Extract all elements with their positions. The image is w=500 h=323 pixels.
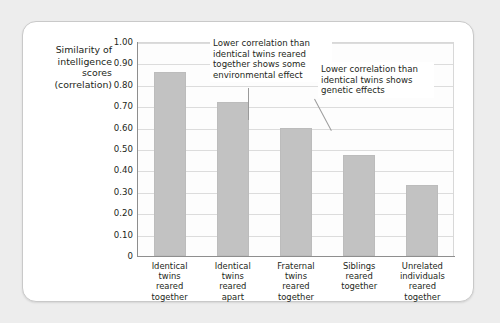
annotation-line: Lower correlation than [321, 64, 431, 75]
bar[interactable] [280, 128, 312, 256]
bar[interactable] [406, 185, 438, 256]
y-tick-label: 1.00 [100, 37, 133, 47]
x-axis-label-line: together [264, 292, 327, 302]
annotation-line: identical twins reared [213, 49, 329, 60]
y-tick-label: 0.30 [100, 187, 133, 197]
annotation-line: environmental effect [213, 70, 329, 81]
x-axis-label-line: Siblings [328, 261, 391, 271]
x-axis-label-line: reared [264, 281, 327, 291]
x-axis-label-line: together [328, 281, 391, 291]
x-axis-label-line: together [391, 292, 454, 302]
y-tick-label: 0 [100, 251, 133, 261]
x-axis-line [137, 256, 455, 257]
x-axis-label-line: reared [138, 281, 201, 291]
x-axis-label-line: twins [138, 271, 201, 281]
bar[interactable] [343, 155, 375, 256]
x-axis-label-line: twins [264, 271, 327, 281]
x-axis-label-line: apart [201, 292, 264, 302]
x-axis-label-line: Identical [201, 261, 264, 271]
y-tick-label: 0.20 [100, 208, 133, 218]
x-axis-category-labels: IdenticaltwinsrearedtogetherIdenticaltwi… [138, 261, 454, 309]
annotation-1: Lower correlation thanidentical twins re… [210, 36, 332, 82]
bar[interactable] [217, 102, 249, 256]
annotation-line: together shows some [213, 59, 329, 70]
x-axis-label-line: reared [391, 281, 454, 291]
x-axis-label-line: Identical [138, 261, 201, 271]
annotation-2: Lower correlation thanidentical twins sh… [318, 62, 434, 98]
x-axis-label-line: Fraternal [264, 261, 327, 271]
x-axis-label: Fraternaltwinsrearedtogether [264, 261, 327, 302]
y-tick-label: 0.90 [100, 58, 133, 68]
x-axis-label-line: reared [201, 281, 264, 291]
x-axis-label-line: reared [328, 271, 391, 281]
x-axis-label-line: twins [201, 271, 264, 281]
y-tick-label: 0.60 [100, 123, 133, 133]
y-tick-label: 0.50 [100, 144, 133, 154]
y-axis-title-line-4: (correlation) [14, 79, 112, 91]
x-axis-label: Siblingsrearedtogether [328, 261, 391, 292]
annotation-line: Lower correlation than [213, 38, 329, 49]
x-axis-label-line: Unrelated [391, 261, 454, 271]
x-axis-label: Unrelatedindividualsrearedtogether [391, 261, 454, 302]
chart-page: Similarity of intelligence scores (corre… [0, 0, 500, 323]
y-axis-title-line-3: scores [14, 67, 112, 79]
x-axis-label: Identicaltwinsrearedapart [201, 261, 264, 302]
x-axis-label-line: individuals [391, 271, 454, 281]
y-axis-title-line-1: Similarity of [14, 44, 112, 56]
x-axis-label: Identicaltwinsrearedtogether [138, 261, 201, 302]
annotation-line: genetic effects [321, 85, 431, 96]
y-axis-tick-labels: 1.000.900.800.700.600.500.400.300.200.10… [100, 42, 133, 256]
y-tick-label: 0.70 [100, 101, 133, 111]
y-axis-title-line-2: intelligence [14, 56, 112, 68]
y-tick-label: 0.40 [100, 165, 133, 175]
y-tick-label: 0.10 [100, 230, 133, 240]
y-axis-title: Similarity of intelligence scores (corre… [14, 44, 112, 90]
annotation-1-leader-line [248, 88, 249, 120]
y-tick-label: 0.80 [100, 80, 133, 90]
annotation-line: identical twins shows [321, 75, 431, 86]
bar[interactable] [154, 72, 186, 256]
x-axis-label-line: together [138, 292, 201, 302]
